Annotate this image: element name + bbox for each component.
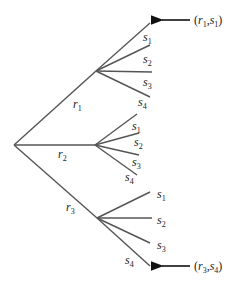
edge-r1-s4 bbox=[96, 71, 150, 97]
label-r1-s2: s2 bbox=[143, 52, 152, 68]
edge-r3 bbox=[14, 145, 97, 218]
tree-edges bbox=[14, 23, 152, 266]
label-r2: r2 bbox=[58, 147, 67, 163]
edge-r1-s1 bbox=[96, 23, 150, 71]
outcome-label-1: (r1,s1) bbox=[194, 13, 222, 29]
outcome-annotations: (r1,s1)(r3,s4) bbox=[162, 13, 222, 275]
decision-tree-diagram: r1s1s2s3s4r2s1s2s3s4r3s1s2s3s4 (r1,s1)(r… bbox=[0, 0, 237, 289]
label-r1: r1 bbox=[73, 97, 82, 113]
label-r1-s1: s1 bbox=[143, 30, 152, 46]
edge-r1 bbox=[14, 71, 96, 145]
label-r2-s3: s3 bbox=[132, 155, 141, 171]
label-r3-s2: s2 bbox=[157, 213, 166, 229]
edge-r2-s1 bbox=[95, 114, 137, 145]
edge-r1-s3 bbox=[96, 71, 152, 72]
label-r2-s1: s1 bbox=[132, 119, 141, 135]
edge-r3-s1 bbox=[97, 192, 150, 218]
label-r1-s3: s3 bbox=[143, 75, 152, 91]
label-r2-s2: s2 bbox=[134, 135, 143, 151]
label-r3: r3 bbox=[66, 200, 75, 216]
edge-r3-s4 bbox=[97, 218, 150, 266]
label-r3-s3: s3 bbox=[157, 238, 166, 254]
edge-r3-s3 bbox=[97, 218, 150, 243]
outcome-label-2: (r3,s4) bbox=[194, 259, 222, 275]
label-r3-s4: s4 bbox=[125, 253, 134, 269]
edge-r2-s2 bbox=[95, 133, 139, 145]
label-r1-s4: s4 bbox=[138, 95, 147, 111]
label-r3-s1: s1 bbox=[157, 187, 166, 203]
edge-r1-s2 bbox=[96, 45, 150, 71]
